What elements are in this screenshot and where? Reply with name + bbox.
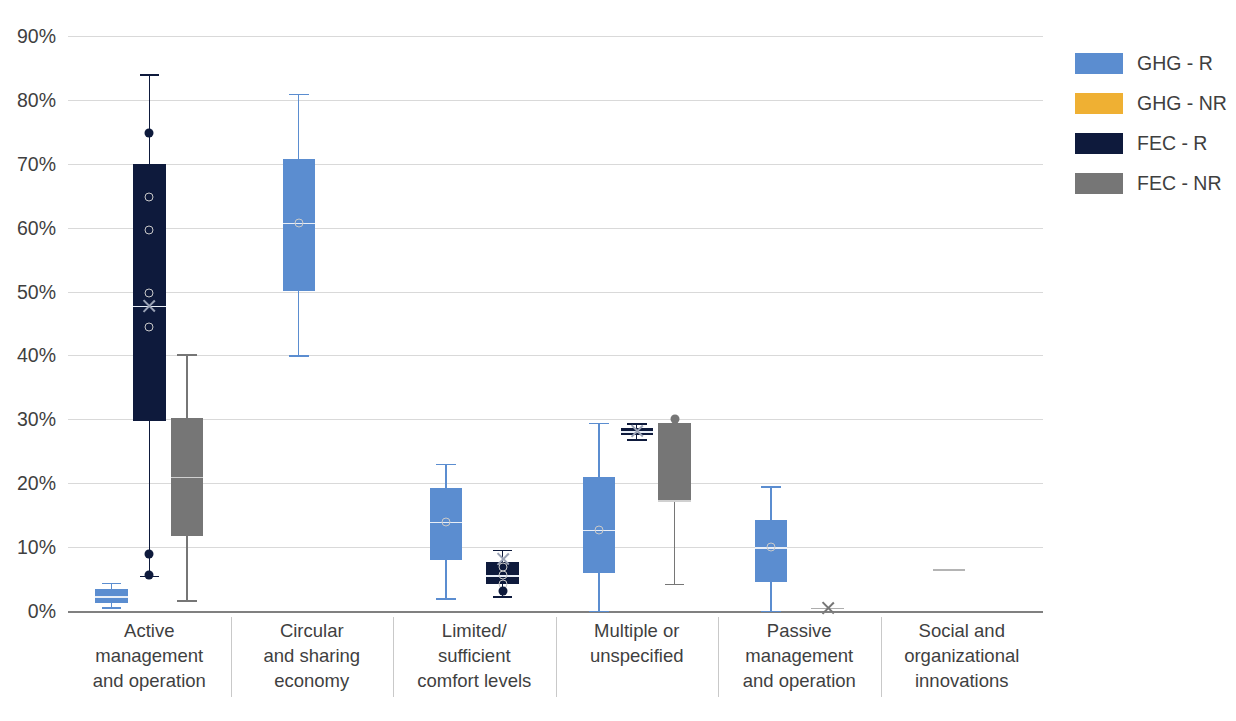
category-label-line: unspecified [590, 644, 684, 669]
category-label-line: and operation [743, 669, 856, 694]
series-fec-nr [68, 36, 1043, 611]
category-label-5: Passivemanagementand operation [718, 613, 881, 713]
legend-swatch-icon [1075, 133, 1123, 154]
y-axis-tick-label: 80% [0, 88, 56, 111]
y-axis-tick-label: 70% [0, 152, 56, 175]
x-axis-category-labels: Activemanagementand operationCircularand… [68, 612, 1043, 713]
y-axis-tick-label: 40% [0, 344, 56, 367]
category-label-line: innovations [915, 669, 1009, 694]
category-label-line: Circular [280, 619, 344, 644]
category-label-line: Passive [767, 619, 832, 644]
legend-swatch-icon [1075, 53, 1123, 74]
category-label-line: organizational [904, 644, 1019, 669]
legend-label: GHG - R [1137, 52, 1213, 75]
category-label-line: management [745, 644, 853, 669]
category-label-1: Activemanagementand operation [68, 613, 231, 713]
box-plot-chart: 0%10%20%30%40%50%60%70%80%90% Activemana… [0, 0, 1236, 721]
category-label-line: comfort levels [417, 669, 531, 694]
category-label-6: Social andorganizationalinnovations [881, 613, 1044, 713]
y-axis-tick-label: 50% [0, 280, 56, 303]
category-label-line: Multiple or [594, 619, 679, 644]
legend-label: FEC - NR [1137, 172, 1222, 195]
legend-label: FEC - R [1137, 132, 1207, 155]
legend-item-4[interactable]: FEC - NR [1075, 166, 1235, 200]
median-line [811, 608, 844, 609]
box[interactable] [658, 423, 691, 500]
box-flat-line [933, 569, 966, 571]
outlier-point [670, 414, 679, 423]
legend-label: GHG - NR [1137, 92, 1227, 115]
category-label-line: Social and [919, 619, 1005, 644]
category-label-line: sufficient [438, 644, 511, 669]
category-label-3: Limited/sufficientcomfort levels [393, 613, 556, 713]
legend-item-1[interactable]: GHG - R [1075, 46, 1235, 80]
category-label-line: Limited/ [442, 619, 507, 644]
whisker-cap-lower [177, 600, 197, 601]
legend-swatch-icon [1075, 173, 1123, 194]
median-line [658, 500, 691, 502]
category-label-line: and sharing [263, 644, 360, 669]
category-label-2: Circularand sharingeconomy [231, 613, 394, 713]
whisker-cap-lower [665, 584, 685, 585]
y-axis-tick-label: 90% [0, 25, 56, 48]
y-axis-tick-label: 20% [0, 472, 56, 495]
legend-item-3[interactable]: FEC - R [1075, 126, 1235, 160]
category-label-line: and operation [93, 669, 206, 694]
whisker-cap-upper [177, 354, 197, 355]
chart-legend: GHG - RGHG - NRFEC - RFEC - NR [1075, 46, 1235, 206]
y-axis-tick-label: 0% [0, 600, 56, 623]
y-axis-tick-label: 30% [0, 408, 56, 431]
legend-item-2[interactable]: GHG - NR [1075, 86, 1235, 120]
median-line [171, 477, 204, 479]
category-label-line: Active [124, 619, 174, 644]
category-label-4: Multiple orunspecified [556, 613, 719, 713]
category-label-line: economy [274, 669, 349, 694]
plot-area [68, 36, 1043, 611]
y-axis-tick-label: 60% [0, 216, 56, 239]
legend-swatch-icon [1075, 93, 1123, 114]
category-label-line: management [95, 644, 203, 669]
y-axis-tick-label: 10% [0, 536, 56, 559]
